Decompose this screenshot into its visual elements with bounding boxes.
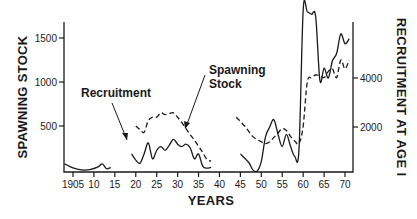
right-axis-ticks: 20004000 bbox=[353, 73, 383, 133]
recruitment-line bbox=[132, 139, 212, 168]
left-y-tick-label: 1500 bbox=[35, 33, 58, 44]
right-axis-label: RECRUITMENT AT AGE I bbox=[394, 18, 409, 177]
annotation-spawning-stock-line2: Stock bbox=[209, 77, 242, 91]
left-y-tick-label: 1000 bbox=[35, 77, 58, 88]
chart: 190510152025303540455055606570 500100015… bbox=[0, 0, 417, 219]
x-tick-label: 40 bbox=[214, 179, 226, 190]
x-axis-label: YEARS bbox=[188, 193, 234, 208]
x-tick-label: 20 bbox=[130, 179, 142, 190]
right-y-tick-label: 2000 bbox=[360, 122, 383, 133]
annotation-spawning-stock-line1: Spawning bbox=[209, 63, 266, 77]
left-y-tick-label: 500 bbox=[40, 121, 57, 132]
x-tick-label: 30 bbox=[172, 179, 184, 190]
x-tick-label: 65 bbox=[319, 179, 331, 190]
arrowhead-spawning-stock bbox=[184, 121, 190, 129]
x-tick-label: 10 bbox=[88, 179, 100, 190]
spawning-stock-line bbox=[136, 113, 211, 162]
x-tick-label: 35 bbox=[193, 179, 205, 190]
x-tick-label: 70 bbox=[339, 179, 351, 190]
x-tick-label: 50 bbox=[256, 179, 268, 190]
x-tick-label: 1905 bbox=[62, 179, 85, 190]
x-axis-ticks: 190510152025303540455055606570 bbox=[62, 172, 351, 190]
recruitment-line bbox=[65, 164, 111, 170]
left-axis-ticks: 50010001500 bbox=[35, 33, 64, 132]
x-tick-label: 45 bbox=[235, 179, 247, 190]
arrowhead-recruitment bbox=[122, 133, 128, 140]
right-y-tick-label: 4000 bbox=[360, 73, 383, 84]
x-tick-label: 60 bbox=[298, 179, 310, 190]
x-tick-label: 15 bbox=[109, 179, 121, 190]
recruitment-line bbox=[240, 0, 349, 172]
x-tick-label: 55 bbox=[277, 179, 289, 190]
left-axis-label: SPAWNING STOCK bbox=[15, 35, 30, 158]
x-tick-label: 25 bbox=[151, 179, 163, 190]
annotation-recruitment: Recruitment bbox=[81, 86, 151, 100]
arrow-spawning-stock bbox=[186, 75, 205, 127]
